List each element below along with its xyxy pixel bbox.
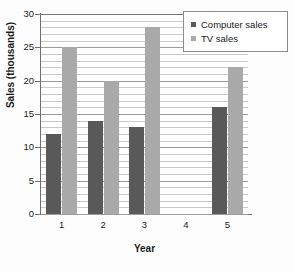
y-axis-tick-label: 20 [16, 76, 34, 85]
y-axis-tick-mark [35, 81, 41, 82]
bar-tv-sales-year-3 [145, 27, 160, 214]
x-axis-tick-label: 2 [93, 219, 113, 230]
y-axis-tick-mark [35, 14, 41, 15]
x-axis-tick-label: 1 [52, 219, 72, 230]
x-axis-line [36, 214, 252, 215]
legend-item: TV sales [191, 32, 281, 45]
y-axis-tick-label: 25 [16, 42, 34, 51]
x-axis-tick-label: 5 [217, 219, 237, 230]
y-axis-tick-label: 0 [16, 209, 34, 218]
x-axis-tick-labels: 12345 [41, 219, 248, 233]
bar-tv-sales-year-1 [62, 47, 77, 214]
y-axis-tick-label: 30 [16, 9, 34, 18]
y-axis-tick-labels: 051015202530 [14, 0, 34, 272]
legend-swatch-icon [191, 22, 196, 27]
bar-tv-sales-year-5 [228, 67, 243, 214]
x-axis-tick-label: 3 [135, 219, 155, 230]
y-axis-tick-label: 15 [16, 109, 34, 118]
y-axis-tick-mark [35, 181, 41, 182]
y-axis-tick-label: 5 [16, 176, 34, 185]
legend-item-label: TV sales [201, 34, 238, 44]
chart-legend: Computer sales TV sales [183, 11, 288, 52]
bar-computer-sales-year-3 [129, 127, 144, 214]
legend-swatch-icon [191, 36, 196, 41]
y-axis-tick-mark [35, 47, 41, 48]
y-axis-tick-mark [35, 214, 41, 215]
y-axis-tick-label: 10 [16, 142, 34, 151]
y-axis-tick-mark [35, 114, 41, 115]
x-axis-title: Year [41, 243, 248, 254]
bar-computer-sales-year-5 [212, 107, 227, 214]
y-axis-tick-mark [35, 147, 41, 148]
bar-chart: Sales (thousands) 051015202530 12345 Yea… [0, 0, 294, 272]
bar-computer-sales-year-1 [46, 134, 61, 214]
legend-item: Computer sales [191, 18, 281, 31]
bar-computer-sales-year-2 [88, 121, 103, 214]
bar-tv-sales-year-2 [104, 81, 119, 214]
x-axis-tick-label: 4 [176, 219, 196, 230]
legend-item-label: Computer sales [201, 20, 268, 30]
